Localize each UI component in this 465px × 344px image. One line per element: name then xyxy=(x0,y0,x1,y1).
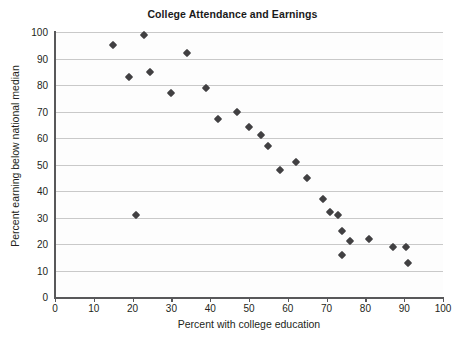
x-tick-label-50: 50 xyxy=(234,303,264,314)
x-tick-mark-70 xyxy=(327,298,328,302)
x-tick-mark-90 xyxy=(404,298,405,302)
gridline-y-60 xyxy=(55,138,443,139)
x-tick-label-10: 10 xyxy=(79,303,109,314)
gridline-y-50 xyxy=(55,165,443,166)
gridline-y-20 xyxy=(55,244,443,245)
y-axis-line xyxy=(54,31,56,298)
x-axis-title: Percent with college education xyxy=(55,318,443,330)
gridline-y-100 xyxy=(55,32,443,33)
data-point xyxy=(233,107,241,115)
x-tick-label-20: 20 xyxy=(118,303,148,314)
gridline-y-90 xyxy=(55,59,443,60)
data-point xyxy=(124,73,132,81)
data-point xyxy=(183,49,191,57)
x-tick-label-30: 30 xyxy=(156,303,186,314)
plot-area xyxy=(55,32,443,297)
data-point xyxy=(338,250,346,258)
data-point xyxy=(318,195,326,203)
x-tick-mark-10 xyxy=(94,298,95,302)
data-point xyxy=(276,166,284,174)
chart-figure: College Attendance and Earnings 01020304… xyxy=(0,0,465,344)
data-point xyxy=(303,174,311,182)
x-tick-mark-80 xyxy=(365,298,366,302)
x-tick-mark-20 xyxy=(133,298,134,302)
x-tick-label-90: 90 xyxy=(389,303,419,314)
data-point xyxy=(245,123,253,131)
data-point xyxy=(404,258,412,266)
data-point xyxy=(214,115,222,123)
chart-title: College Attendance and Earnings xyxy=(0,8,465,20)
data-point xyxy=(167,89,175,97)
gridline-y-80 xyxy=(55,85,443,86)
y-tick-label-0: 0 xyxy=(2,292,48,303)
data-point xyxy=(109,41,117,49)
data-point xyxy=(338,227,346,235)
gridline-y-70 xyxy=(55,112,443,113)
x-tick-mark-100 xyxy=(443,298,444,302)
x-tick-label-100: 100 xyxy=(428,303,458,314)
gridline-y-40 xyxy=(55,191,443,192)
x-tick-label-70: 70 xyxy=(312,303,342,314)
data-point xyxy=(264,142,272,150)
x-tick-mark-0 xyxy=(55,298,56,302)
data-point xyxy=(146,68,154,76)
x-tick-mark-40 xyxy=(210,298,211,302)
gridline-y-30 xyxy=(55,218,443,219)
x-tick-label-40: 40 xyxy=(195,303,225,314)
x-tick-label-60: 60 xyxy=(273,303,303,314)
x-tick-mark-60 xyxy=(288,298,289,302)
x-tick-label-0: 0 xyxy=(40,303,70,314)
gridline-y-10 xyxy=(55,271,443,272)
x-tick-mark-50 xyxy=(249,298,250,302)
x-tick-mark-30 xyxy=(171,298,172,302)
data-point xyxy=(365,234,373,242)
x-tick-label-80: 80 xyxy=(350,303,380,314)
y-axis-title: Percent earning below national median xyxy=(9,24,21,289)
